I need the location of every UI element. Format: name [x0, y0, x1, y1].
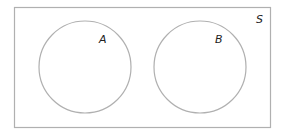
set-b-circle — [154, 21, 246, 113]
universe-rectangle — [15, 8, 271, 128]
set-a-label: A — [98, 33, 107, 46]
set-a-circle — [39, 21, 131, 113]
set-b-label: B — [215, 33, 223, 46]
venn-diagram: S A B — [0, 0, 284, 136]
universe-label: S — [256, 13, 263, 26]
